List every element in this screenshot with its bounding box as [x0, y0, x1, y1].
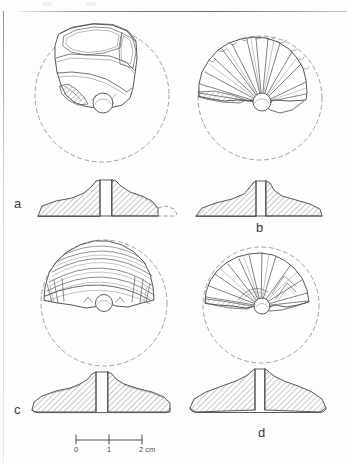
illustration-plate: a b c d 0 1 2 cm [0, 0, 347, 463]
section-view-b [196, 181, 322, 216]
plan-view-d [203, 247, 319, 363]
scale-tick-label-0: 0 [74, 445, 78, 454]
scale-tick-label-2: 2 cm [139, 445, 155, 454]
panel-label-d: d [258, 425, 265, 440]
section-view-d [190, 369, 326, 413]
figure-drawings [0, 0, 347, 463]
plan-view-c [41, 240, 167, 366]
section-view-a [38, 180, 177, 216]
panel-label-c: c [14, 402, 21, 417]
plan-view-a [35, 24, 169, 163]
scale-bar-graphic [76, 435, 142, 444]
plan-view-b [198, 36, 322, 160]
panel-label-a: a [14, 196, 21, 211]
panel-label-b: b [256, 220, 263, 235]
scale-tick-label-1: 1 [107, 445, 111, 454]
section-view-c [32, 372, 170, 413]
